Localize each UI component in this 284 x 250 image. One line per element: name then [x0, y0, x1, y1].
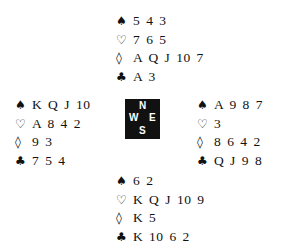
east-clubs: Q J 9 8: [214, 152, 262, 171]
compass-south-label: S: [139, 126, 146, 136]
club-icon: ♣: [15, 152, 28, 171]
east-diamonds-row: ◊ 8 6 4 2: [197, 133, 263, 152]
south-diamonds-row: ◊ K 5: [116, 209, 205, 228]
spade-icon: ♠: [116, 12, 129, 31]
east-hand: ♠ A 9 8 7 ♡ 3 ◊ 8 6 4 2 ♣ Q J 9 8: [197, 96, 263, 170]
west-hearts: A 8 4 2: [32, 115, 81, 134]
club-icon: ♣: [116, 228, 129, 247]
east-clubs-row: ♣ Q J 9 8: [197, 152, 263, 171]
heart-icon: ♡: [15, 115, 28, 134]
spade-icon: ♠: [15, 96, 28, 115]
north-diamonds-row: ◊ A Q J 10 7: [116, 49, 204, 68]
north-clubs: A 3: [133, 68, 156, 87]
north-spades-row: ♠ 5 4 3: [116, 12, 204, 31]
compass-east-label: E: [149, 113, 156, 123]
north-hearts: 7 6 5: [133, 31, 167, 50]
compass-box: N W E S: [125, 99, 160, 139]
west-hearts-row: ♡ A 8 4 2: [15, 115, 90, 134]
club-icon: ♣: [197, 152, 210, 171]
east-hearts-row: ♡ 3: [197, 115, 263, 134]
north-diamonds: A Q J 10 7: [133, 49, 204, 68]
west-clubs-row: ♣ 7 5 4: [15, 152, 90, 171]
west-clubs: 7 5 4: [32, 152, 66, 171]
north-clubs-row: ♣ A 3: [116, 68, 204, 87]
west-hand: ♠ K Q J 10 ♡ A 8 4 2 ◊ 9 3 ♣ 7 5 4: [15, 96, 90, 170]
spade-icon: ♠: [116, 172, 129, 191]
east-hearts: 3: [214, 115, 221, 134]
heart-icon: ♡: [116, 191, 129, 210]
south-spades: 6 2: [133, 172, 153, 191]
diamond-icon: ◊: [15, 133, 28, 152]
south-diamonds: K 5: [133, 209, 156, 228]
west-diamonds-row: ◊ 9 3: [15, 133, 90, 152]
west-spades-row: ♠ K Q J 10: [15, 96, 90, 115]
spade-icon: ♠: [197, 96, 210, 115]
compass-west-label: W: [129, 113, 138, 123]
west-diamonds: 9 3: [32, 133, 52, 152]
south-hearts-row: ♡ K Q J 10 9: [116, 191, 205, 210]
north-hearts-row: ♡ 7 6 5: [116, 31, 204, 50]
diamond-icon: ◊: [197, 133, 210, 152]
heart-icon: ♡: [116, 31, 129, 50]
club-icon: ♣: [116, 68, 129, 87]
east-spades: A 9 8 7: [214, 96, 263, 115]
west-spades: K Q J 10: [32, 96, 90, 115]
south-hearts: K Q J 10 9: [133, 191, 205, 210]
compass-north-label: N: [139, 101, 146, 111]
diamond-icon: ◊: [116, 209, 129, 228]
diamond-icon: ◊: [116, 49, 129, 68]
south-spades-row: ♠ 6 2: [116, 172, 205, 191]
north-spades: 5 4 3: [133, 12, 167, 31]
heart-icon: ♡: [197, 115, 210, 134]
south-clubs: K 10 6 2: [133, 228, 190, 247]
south-clubs-row: ♣ K 10 6 2: [116, 228, 205, 247]
south-hand: ♠ 6 2 ♡ K Q J 10 9 ◊ K 5 ♣ K 10 6 2: [116, 172, 205, 246]
east-spades-row: ♠ A 9 8 7: [197, 96, 263, 115]
north-hand: ♠ 5 4 3 ♡ 7 6 5 ◊ A Q J 10 7 ♣ A 3: [116, 12, 204, 86]
east-diamonds: 8 6 4 2: [214, 133, 261, 152]
